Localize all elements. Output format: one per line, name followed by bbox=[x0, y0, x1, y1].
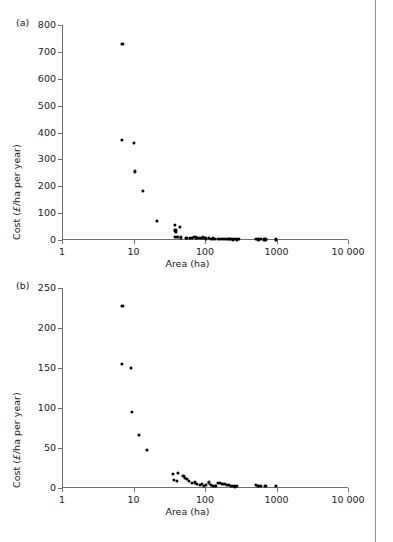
data-point bbox=[173, 224, 176, 227]
y-tick-label-a-0: 0 bbox=[50, 235, 56, 245]
y-tick-label-a-300: 300 bbox=[38, 154, 56, 164]
x-tick-label-a-1: 1 bbox=[59, 246, 65, 257]
data-point bbox=[138, 434, 141, 437]
y-tick-b-50 bbox=[58, 448, 62, 449]
chart-panel-b: (b) Cost (£/ha per year) 050100150200250… bbox=[0, 278, 375, 540]
x-tick-label-b-100: 100 bbox=[196, 494, 214, 505]
x-axis-label-a: Area (ha) bbox=[0, 258, 375, 269]
y-tick-label-b-100: 100 bbox=[38, 403, 56, 413]
y-tick-a-600 bbox=[58, 79, 62, 80]
x-tick-b-10000 bbox=[348, 488, 349, 492]
y-tick-label-b-200: 200 bbox=[38, 323, 56, 333]
x-tick-b-100 bbox=[205, 488, 206, 492]
panel-label-b: (b) bbox=[16, 280, 29, 291]
data-point bbox=[120, 138, 123, 141]
data-point bbox=[264, 238, 267, 241]
scatter-plot-b: 050100150200250110100100010 000 bbox=[62, 288, 348, 488]
data-point bbox=[155, 220, 158, 223]
y-tick-label-a-800: 800 bbox=[38, 20, 56, 30]
x-tick-b-1000 bbox=[277, 488, 278, 492]
x-tick-label-b-10: 10 bbox=[127, 494, 139, 505]
y-tick-label-b-0: 0 bbox=[50, 483, 56, 493]
y-tick-b-100 bbox=[58, 408, 62, 409]
x-tick-label-b-1000: 1000 bbox=[264, 494, 288, 505]
data-point bbox=[172, 472, 175, 475]
y-axis-label-suffix-b: /ha per year) bbox=[11, 392, 22, 454]
y-tick-a-500 bbox=[58, 106, 62, 107]
x-tick-b-10 bbox=[134, 488, 135, 492]
data-point bbox=[146, 448, 149, 451]
y-axis-line-a bbox=[62, 25, 63, 240]
y-tick-label-a-700: 700 bbox=[38, 47, 56, 57]
y-axis-label-currency-b: £ bbox=[11, 454, 22, 460]
chart-panel-a: (a) Cost (£/ha per year) 010020030040050… bbox=[0, 12, 375, 270]
x-tick-label-b-10000: 10 000 bbox=[331, 494, 364, 505]
x-axis-label-b: Area (ha) bbox=[0, 506, 375, 517]
y-tick-b-200 bbox=[58, 328, 62, 329]
top-text-remnant bbox=[8, 0, 368, 9]
x-tick-label-a-100: 100 bbox=[196, 246, 214, 257]
y-tick-label-a-600: 600 bbox=[38, 74, 56, 84]
y-tick-label-a-200: 200 bbox=[38, 181, 56, 191]
data-point bbox=[175, 230, 178, 233]
x-tick-a-1 bbox=[62, 240, 63, 244]
y-axis-label-currency-a: £ bbox=[11, 206, 22, 212]
x-tick-b-1 bbox=[62, 488, 63, 492]
y-axis-label-b: Cost (£/ha per year) bbox=[11, 392, 22, 488]
data-point bbox=[237, 238, 240, 241]
y-axis-label-a: Cost (£/ha per year) bbox=[11, 144, 22, 240]
scatter-plot-a: 0100200300400500600700800110100100010 00… bbox=[62, 25, 348, 240]
data-point bbox=[176, 471, 179, 474]
data-point bbox=[178, 226, 181, 229]
y-tick-a-400 bbox=[58, 133, 62, 134]
x-tick-label-a-10000: 10 000 bbox=[331, 246, 364, 257]
data-point bbox=[129, 366, 132, 369]
x-tick-a-10000 bbox=[348, 240, 349, 244]
y-tick-label-b-150: 150 bbox=[38, 363, 56, 373]
x-tick-a-10 bbox=[134, 240, 135, 244]
x-tick-label-a-10: 10 bbox=[127, 246, 139, 257]
y-axis-label-prefix-b: Cost ( bbox=[11, 460, 22, 488]
x-tick-label-b-1: 1 bbox=[59, 494, 65, 505]
y-tick-label-a-400: 400 bbox=[38, 128, 56, 138]
y-tick-label-b-250: 250 bbox=[38, 283, 56, 293]
y-tick-a-200 bbox=[58, 186, 62, 187]
data-point bbox=[134, 170, 137, 173]
x-tick-a-100 bbox=[205, 240, 206, 244]
y-axis-label-suffix-a: /ha per year) bbox=[11, 144, 22, 206]
y-tick-label-a-100: 100 bbox=[38, 208, 56, 218]
x-tick-a-1000 bbox=[277, 240, 278, 244]
y-tick-a-800 bbox=[58, 25, 62, 26]
data-point bbox=[121, 42, 124, 45]
page-border-rule bbox=[375, 0, 376, 542]
y-tick-b-250 bbox=[58, 288, 62, 289]
y-tick-label-b-50: 50 bbox=[44, 443, 56, 453]
y-axis-line-b bbox=[62, 288, 63, 488]
x-tick-label-a-1000: 1000 bbox=[264, 246, 288, 257]
data-point bbox=[133, 141, 136, 144]
data-point bbox=[131, 410, 134, 413]
y-tick-a-700 bbox=[58, 52, 62, 53]
y-tick-a-300 bbox=[58, 159, 62, 160]
y-tick-a-100 bbox=[58, 213, 62, 214]
data-point bbox=[121, 304, 124, 307]
y-axis-label-prefix-a: Cost ( bbox=[11, 212, 22, 240]
y-tick-b-150 bbox=[58, 368, 62, 369]
data-point bbox=[175, 479, 178, 482]
data-point bbox=[120, 362, 123, 365]
y-tick-label-a-500: 500 bbox=[38, 101, 56, 111]
panel-label-a: (a) bbox=[16, 17, 29, 28]
data-point bbox=[141, 189, 144, 192]
